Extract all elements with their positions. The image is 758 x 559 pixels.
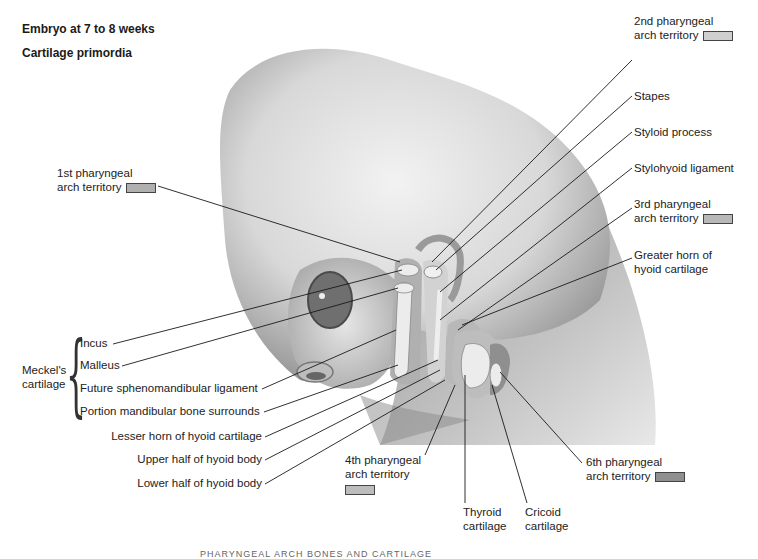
label-malleus: Malleus — [80, 358, 120, 372]
label-stylohyoid-ligament: Stylohyoid ligament — [634, 161, 734, 175]
label-arch4-territory: 4th pharyngeal arch territory — [345, 453, 421, 495]
label-thyroid-cartilage: Thyroid cartilage — [463, 505, 506, 533]
arch1-swatch — [126, 183, 156, 193]
arch4-swatch — [345, 485, 375, 495]
label-arch1-territory: 1st pharyngeal arch territory — [57, 166, 156, 194]
label-lower-hyoid-body: Lower half of hyoid body — [137, 476, 262, 490]
label-incus: Incus — [80, 336, 108, 350]
label-arch2-territory: 2nd pharyngeal arch territory — [634, 14, 733, 42]
label-sphenomandibular-ligament: Future sphenomandibular ligament — [80, 381, 258, 395]
arch3-swatch — [703, 214, 733, 224]
arch6-swatch — [655, 472, 685, 482]
stapes-shape — [424, 266, 442, 278]
figure-caption: PHARYNGEAL ARCH BONES AND CARTILAGE — [200, 549, 432, 559]
cricoid-cartilage — [490, 363, 502, 387]
label-arch6-territory: 6th pharyngeal arch territory — [586, 455, 685, 483]
label-stapes: Stapes — [634, 89, 670, 103]
label-lesser-horn-hyoid: Lesser horn of hyoid cartilage — [111, 429, 262, 443]
label-greater-horn-hyoid: Greater horn of hyoid cartilage — [634, 248, 712, 276]
arch2-swatch — [703, 31, 733, 41]
label-upper-hyoid-body: Upper half of hyoid body — [137, 452, 262, 466]
label-styloid-process: Styloid process — [634, 125, 712, 139]
embryo-eye — [308, 272, 352, 328]
label-meckels-cartilage: Meckel's cartilage — [22, 363, 66, 391]
label-cricoid-cartilage: Cricoid cartilage — [525, 505, 568, 533]
label-mandibular-bone: Portion mandibular bone surrounds — [80, 404, 260, 418]
label-arch3-territory: 3rd pharyngeal arch territory — [634, 197, 733, 225]
